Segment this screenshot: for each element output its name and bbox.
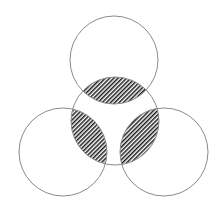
venn-diagram — [0, 0, 224, 209]
circle-outlines — [19, 16, 208, 196]
hatched-intersections — [19, 16, 208, 196]
